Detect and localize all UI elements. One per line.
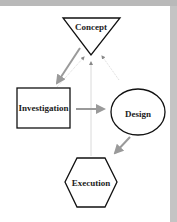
node-investigation-label: Investigation [18, 103, 68, 113]
process-diagram: Concept Investigation Design Execution [0, 0, 177, 222]
node-execution-label: Execution [72, 178, 111, 188]
node-concept[interactable]: Concept [63, 18, 120, 55]
node-design[interactable]: Design [111, 89, 165, 135]
edge-design-to-concept [102, 56, 119, 80]
node-concept-label: Concept [75, 22, 107, 32]
node-investigation[interactable]: Investigation [17, 88, 70, 128]
node-execution[interactable]: Execution [65, 158, 117, 207]
edge-concept-to-investigation [57, 48, 80, 83]
edge-design-to-execution [115, 137, 130, 153]
node-design-label: Design [125, 109, 151, 119]
